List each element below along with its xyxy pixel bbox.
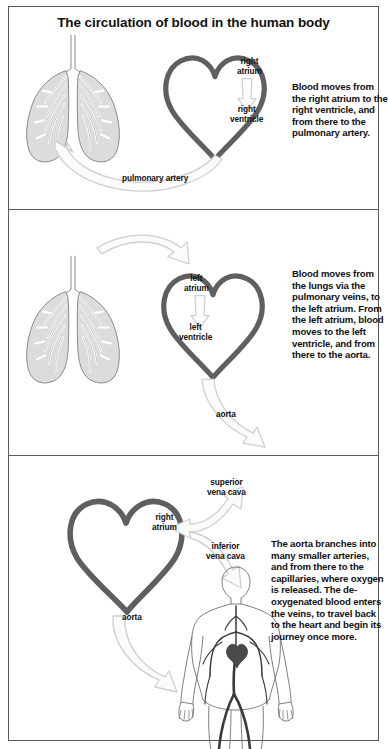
aorta-arrow bbox=[113, 616, 177, 692]
label-left-ventricle: left ventricle bbox=[179, 323, 212, 342]
panel-2-description: Blood moves from the lungs via the pulmo… bbox=[292, 268, 388, 361]
pulmonary-vein-arrow bbox=[97, 235, 189, 264]
panel-3-description: The aorta branches into many smaller art… bbox=[271, 538, 387, 642]
label-inferior-vena-cava: inferior vena cava bbox=[206, 542, 245, 561]
lungs-illustration bbox=[27, 35, 120, 162]
label-aorta: aorta bbox=[122, 613, 142, 623]
panel-1-description: Blood moves from the right atrium to the… bbox=[292, 81, 388, 139]
label-right-atrium: right atrium bbox=[152, 513, 177, 532]
diagram-frame: The circulation of blood in the human bo… bbox=[8, 6, 379, 741]
label-aorta: aorta bbox=[216, 410, 236, 420]
label-right-atrium: right atrium bbox=[237, 57, 262, 76]
label-left-atrium: left atrium bbox=[184, 274, 209, 293]
label-right-ventricle: right ventricle bbox=[230, 105, 263, 124]
label-pulmonary-artery: pulmonary artery bbox=[122, 174, 188, 184]
panel-pulmonary-artery: The circulation of blood in the human bo… bbox=[9, 7, 378, 210]
panel-systemic-circulation: superior vena cava right atrium inferior… bbox=[9, 456, 378, 741]
lungs-illustration bbox=[27, 256, 120, 383]
label-superior-vena-cava: superior vena cava bbox=[207, 478, 246, 497]
panel-pulmonary-vein: left atrium left ventricle aorta Blood m… bbox=[9, 210, 378, 456]
